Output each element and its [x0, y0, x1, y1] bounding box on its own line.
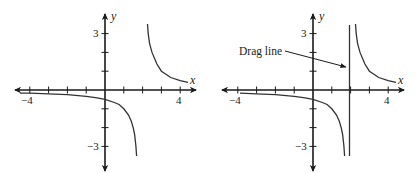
y-min-label: −3 — [87, 140, 99, 152]
right-graph: Drag line y x 3 −3 −4 4 — [222, 9, 404, 171]
curve-left-branch — [20, 93, 137, 156]
y-axis-label: y — [110, 9, 117, 23]
left-graph: y x 3 −3 −4 4 — [15, 9, 196, 171]
annotation-arrow — [285, 51, 346, 67]
x-axis-label: x — [397, 73, 404, 87]
y-max-label: 3 — [301, 27, 307, 39]
curve-left-branch — [240, 93, 345, 156]
x-min-label: −4 — [229, 94, 241, 106]
x-axis-label: x — [189, 73, 196, 87]
figure: y x 3 −3 −4 4 — [0, 0, 416, 173]
drag-line-annotation: Drag line — [239, 45, 282, 58]
y-min-label: −3 — [295, 140, 307, 152]
x-max-label: 4 — [176, 94, 182, 106]
x-min-label: −4 — [21, 94, 33, 106]
x-max-label: 4 — [384, 94, 390, 106]
y-max-label: 3 — [93, 27, 99, 39]
curve-right-branch — [148, 24, 189, 82]
curve-right-branch — [356, 24, 397, 82]
y-axis-label: y — [318, 9, 325, 23]
